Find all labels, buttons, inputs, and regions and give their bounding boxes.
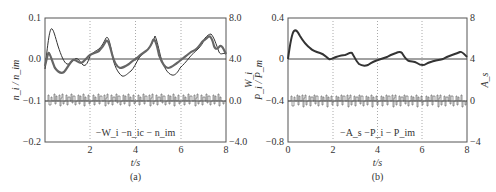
ytick-right: 0 [470, 95, 475, 106]
ytick-left: 0 [279, 53, 284, 64]
legend-b: −A_s −P_i − P_im [340, 127, 415, 138]
ylabel-left-a: n_i / n_im [10, 60, 21, 101]
ytick-right: 4.0 [229, 53, 242, 64]
ytick-right: −4.0 [229, 136, 247, 147]
ytick-left: −0.4 [266, 95, 284, 106]
ytick-left: −0.2 [23, 136, 41, 147]
panel-b: −A_s −P_i − P_im 0.4 0 −0.4 −0.8 8 4 0 −… [253, 12, 490, 183]
ytick-right: 4 [470, 53, 475, 64]
ylabel-right-b: A_s [479, 72, 490, 88]
ytick-right: 8.0 [229, 12, 242, 23]
xtick: 6 [420, 144, 425, 155]
xtick: 8 [465, 144, 470, 155]
xlabel-b: t/s [373, 157, 383, 168]
xtick: 0 [286, 144, 291, 155]
caption-a: (a) [130, 171, 141, 183]
ytick-left: −0.8 [266, 136, 284, 147]
xtick: 6 [179, 144, 184, 155]
ytick-left: 0.4 [272, 12, 285, 23]
ytick-right: −4 [470, 136, 481, 147]
xtick: 8 [224, 144, 229, 155]
xlabel-a: t/s [131, 157, 141, 168]
xtick: 4 [375, 144, 380, 155]
xtick: 4 [133, 144, 138, 155]
xtick: 2 [331, 144, 336, 155]
legend-a: −W_i −n_ic − n_im [96, 127, 176, 138]
figure: −W_i −n_ic − n_im 0.1 0.0 −0.1 −0.2 8.0 … [0, 0, 496, 192]
panel-a: −W_i −n_ic − n_im 0.1 0.0 −0.1 −0.2 8.0 … [10, 12, 254, 183]
ylabel-left-b: P_i / P_m [253, 60, 264, 101]
ytick-left: 0.0 [29, 53, 42, 64]
ytick-right: 0.0 [229, 95, 242, 106]
xtick: 2 [88, 144, 93, 155]
ytick-left: 0.1 [29, 12, 42, 23]
ytick-right: 8 [470, 12, 475, 23]
ytick-left: −0.1 [23, 95, 41, 106]
caption-b: (b) [372, 171, 384, 183]
